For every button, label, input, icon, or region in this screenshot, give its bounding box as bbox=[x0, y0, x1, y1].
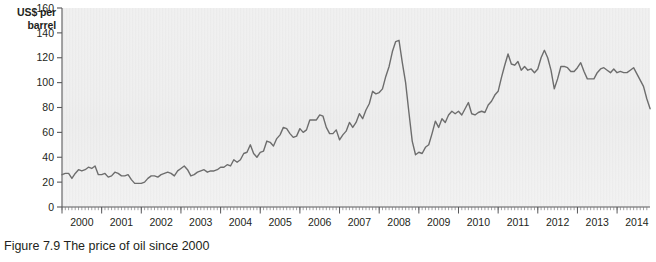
x-tick-label: 2014 bbox=[625, 216, 649, 228]
y-axis-ticks: 020406080100120140160 bbox=[36, 2, 62, 213]
y-tick-label: 160 bbox=[36, 2, 54, 14]
x-tick-label: 2007 bbox=[348, 216, 372, 228]
x-tick-label: 2012 bbox=[546, 216, 570, 228]
y-tick-label: 40 bbox=[42, 151, 54, 163]
x-tick-label: 2002 bbox=[149, 216, 173, 228]
x-tick-label: 2009 bbox=[427, 216, 451, 228]
x-tick-label: 2001 bbox=[110, 216, 134, 228]
x-tick-label: 2003 bbox=[189, 216, 213, 228]
x-tick-label: 2008 bbox=[387, 216, 411, 228]
x-tick-label: 2000 bbox=[70, 216, 94, 228]
y-tick-label: 120 bbox=[36, 51, 54, 63]
x-tick-label: 2006 bbox=[308, 216, 332, 228]
x-axis-major-ticks bbox=[62, 207, 617, 214]
y-tick-label: 20 bbox=[42, 176, 54, 188]
x-tick-label: 2005 bbox=[268, 216, 292, 228]
figure-caption: Figure 7.9 The price of oil since 2000 bbox=[4, 238, 209, 254]
x-tick-label: 2004 bbox=[229, 216, 253, 228]
y-tick-label: 140 bbox=[36, 27, 54, 39]
y-tick-label: 0 bbox=[48, 201, 54, 213]
x-tick-label: 2013 bbox=[586, 216, 610, 228]
x-tick-label: 2010 bbox=[467, 216, 491, 228]
oil-price-line-chart: 020406080100120140160 200020012002200320… bbox=[0, 0, 656, 236]
figure-container: US$ per barrel 020406080100120140160 bbox=[0, 0, 656, 262]
x-axis-tick-labels: 2000200120022003200420052006200720082009… bbox=[70, 216, 649, 228]
y-tick-label: 100 bbox=[36, 76, 54, 88]
y-tick-label: 80 bbox=[42, 101, 54, 113]
y-tick-label: 60 bbox=[42, 126, 54, 138]
x-tick-label: 2011 bbox=[507, 216, 530, 228]
